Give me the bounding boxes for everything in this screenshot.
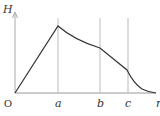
x-axis-label: r: [156, 97, 160, 110]
marker-label-b: b: [97, 97, 104, 110]
marker-label-c: c: [125, 97, 131, 110]
y-axis-label: H: [2, 3, 13, 16]
h-r-diagram: H O a b c r: [0, 0, 160, 116]
h-curve: [15, 26, 156, 93]
marker-label-a: a: [55, 97, 62, 110]
origin-label: O: [4, 97, 12, 109]
